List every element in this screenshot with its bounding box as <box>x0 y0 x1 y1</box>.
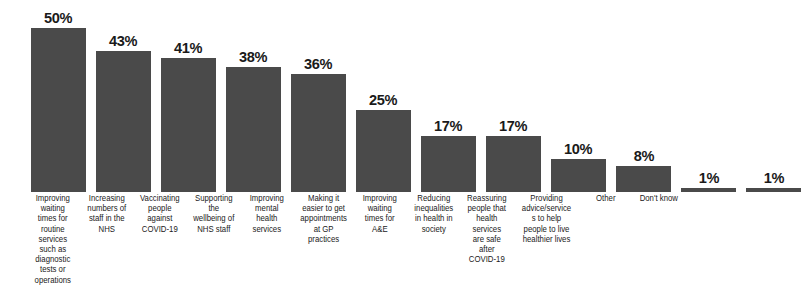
bar-rect[interactable] <box>161 58 216 192</box>
bar-value-label: 43% <box>109 33 137 49</box>
bar-rect[interactable] <box>681 188 736 192</box>
bar-column[interactable]: 10% <box>551 0 606 192</box>
category-label: Vaccinating people against COVID-19 <box>139 194 180 235</box>
bar-value-label: 1% <box>698 170 719 186</box>
bar-value-label: 8% <box>633 148 654 164</box>
category-label: Providing advice/services to help people… <box>520 194 572 245</box>
category-label: Reassuring people that health services a… <box>466 194 507 265</box>
bar-value-label: 50% <box>44 10 72 26</box>
bar-value-label: 17% <box>499 118 527 134</box>
bar-rect[interactable] <box>226 67 281 192</box>
chart-plot-area: 50% 43% 41% 38% 36% 25% 17% 17% <box>31 0 691 192</box>
bar-column[interactable]: 41% <box>161 0 216 192</box>
bar-column[interactable]: 43% <box>96 0 151 192</box>
bar-column[interactable]: 50% <box>31 0 86 192</box>
bar-column[interactable]: 17% <box>421 0 476 192</box>
bar-column[interactable]: 1% <box>746 0 801 192</box>
bar-rect[interactable] <box>551 159 606 192</box>
bar-value-label: 38% <box>239 49 267 65</box>
category-label: Supporting the wellbeing of NHS staff <box>193 194 234 235</box>
bar-column[interactable]: 8% <box>616 0 671 192</box>
bar-rect[interactable] <box>486 136 541 192</box>
category-label: Increasing numbers of staff in the NHS <box>86 194 127 235</box>
bar-rect[interactable] <box>96 51 151 192</box>
bar-value-label: 1% <box>763 170 784 186</box>
bar-column[interactable]: 36% <box>291 0 346 192</box>
bar-column[interactable]: 1% <box>681 0 736 192</box>
bar-column[interactable]: 38% <box>226 0 281 192</box>
category-label: Other <box>585 194 626 204</box>
bar-value-label: 25% <box>369 92 397 108</box>
bar-value-label: 10% <box>564 141 592 157</box>
bar-rect[interactable] <box>291 74 346 192</box>
bar-column[interactable]: 25% <box>356 0 411 192</box>
category-label: Improving mental health services <box>246 194 287 235</box>
bar-rect[interactable] <box>356 110 411 192</box>
bar-value-label: 17% <box>434 118 462 134</box>
bar-rect[interactable] <box>31 28 86 192</box>
bar-value-label: 41% <box>174 40 202 56</box>
bar-rect[interactable] <box>616 166 671 192</box>
category-label: Improving waiting times for routine serv… <box>32 194 73 286</box>
category-label: Reducing inequalities in health in socie… <box>413 194 454 235</box>
category-label: Making it easier to get appointments at … <box>300 194 347 245</box>
bar-value-label: 36% <box>304 56 332 72</box>
bar-column[interactable]: 17% <box>486 0 541 192</box>
chart-category-labels: Improving waiting times for routine serv… <box>31 194 691 266</box>
bar-rect[interactable] <box>746 188 801 192</box>
bar-rect[interactable] <box>421 136 476 192</box>
category-label: Don't know <box>638 194 679 204</box>
category-label: Improving waiting times for A&E <box>359 194 400 235</box>
